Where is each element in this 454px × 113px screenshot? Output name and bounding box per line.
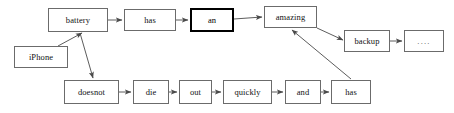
node-battery[interactable]: battery xyxy=(48,8,108,32)
node-label-out: out xyxy=(190,87,201,96)
node-label-die: die xyxy=(146,87,157,96)
node-backup[interactable]: backup xyxy=(344,30,390,52)
node-die[interactable]: die xyxy=(133,80,169,104)
node-label-iphone: iPhone xyxy=(29,52,53,61)
edge-has_bot-to-amazing xyxy=(292,30,351,79)
diagram-canvas: batteryhasanamazingbackup....iPhonedoesn… xyxy=(0,0,454,113)
node-label-battery: battery xyxy=(66,15,90,24)
node-label-backup: backup xyxy=(354,36,379,45)
node-iphone[interactable]: iPhone xyxy=(14,46,68,68)
node-has_top[interactable]: has xyxy=(124,9,176,31)
node-amazing[interactable]: amazing xyxy=(264,6,317,28)
node-and[interactable]: and xyxy=(285,80,321,104)
node-label-and: and xyxy=(297,87,310,96)
edge-amazing-to-backup xyxy=(317,28,343,40)
node-out[interactable]: out xyxy=(179,80,212,104)
node-label-ellipsis: .... xyxy=(417,36,430,45)
node-label-amazing: amazing xyxy=(276,12,306,21)
node-label-has_bot: has xyxy=(345,87,357,96)
node-ellipsis[interactable]: .... xyxy=(404,30,444,52)
node-quickly[interactable]: quickly xyxy=(223,80,272,104)
node-doesnot[interactable]: doesnot xyxy=(64,80,119,104)
edge-iphone-to-battery xyxy=(58,33,82,46)
node-label-an: an xyxy=(208,15,216,24)
node-label-has_top: has xyxy=(144,15,156,24)
node-label-doesnot: doesnot xyxy=(78,87,105,96)
node-label-quickly: quickly xyxy=(234,87,260,96)
node-has_bot[interactable]: has xyxy=(331,80,371,104)
edge-an-to-amazing xyxy=(234,17,262,19)
node-an[interactable]: an xyxy=(190,8,234,32)
edge-battery-to-doesnot xyxy=(80,33,93,78)
